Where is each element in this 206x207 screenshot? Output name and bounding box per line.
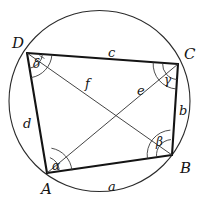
angle-label-delta: δ — [33, 58, 40, 70]
diagonal-f-DB — [27, 53, 172, 155]
vertex-label-C: C — [184, 47, 195, 62]
circumcircle — [9, 11, 190, 192]
figure-canvas — [0, 0, 206, 207]
side-c-CD — [27, 53, 178, 64]
side-label-a: a — [108, 180, 116, 193]
angle-label-alpha: α — [52, 160, 60, 172]
side-label-d: d — [23, 117, 31, 130]
geometry-figure: D C B A a b c d e f α β γ δ — [0, 0, 206, 207]
diagonal-label-f: f — [85, 77, 90, 90]
side-label-b: b — [179, 104, 187, 117]
side-b-BC — [172, 64, 178, 155]
angle-label-beta: β — [156, 136, 163, 148]
angle-label-gamma: γ — [164, 74, 171, 86]
vertex-label-A: A — [41, 182, 52, 197]
diagonal-label-e: e — [137, 84, 145, 97]
vertex-label-D: D — [12, 36, 24, 51]
side-label-c: c — [108, 46, 115, 59]
vertex-label-B: B — [180, 161, 191, 176]
